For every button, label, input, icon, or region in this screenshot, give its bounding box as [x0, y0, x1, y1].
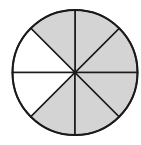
fraction-circle-diagram	[0, 0, 141, 145]
